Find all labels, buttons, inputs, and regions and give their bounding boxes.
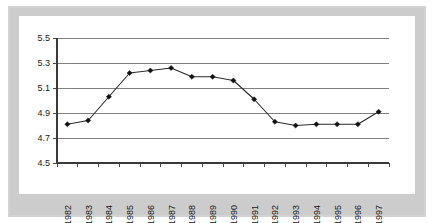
chart-figure: 4.54.74.95.15.35.5 198219831984198519861… (0, 0, 434, 223)
plot-background-panel (19, 16, 415, 194)
